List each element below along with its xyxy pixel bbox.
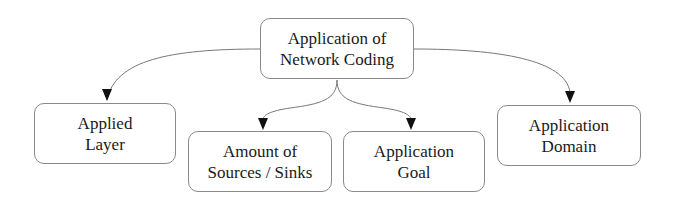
node-line: Goal (397, 162, 430, 183)
node-line: Amount of (223, 141, 297, 162)
node-line: Application (529, 115, 609, 136)
edge-root-applied-layer (107, 49, 260, 100)
arrowhead-icon (565, 91, 575, 103)
node-line: Applied (78, 113, 133, 134)
root-node: Application of Network Coding (260, 18, 414, 79)
root-line-1: Application of (288, 28, 387, 49)
edge-root-goal (337, 80, 411, 120)
arrowhead-icon (406, 118, 416, 130)
node-line: Layer (85, 134, 125, 155)
node-line: Domain (542, 136, 597, 157)
node-line: Sources / Sinks (208, 162, 313, 183)
node-application-goal: Application Goal (343, 131, 485, 192)
arrowhead-icon (102, 89, 112, 101)
edge-root-amount (263, 80, 337, 120)
arrowhead-icon (258, 118, 268, 130)
node-line: Application (374, 141, 454, 162)
edge-root-application-domain (414, 49, 570, 92)
node-application-domain: Application Domain (497, 105, 641, 166)
node-applied-layer: Applied Layer (34, 103, 176, 164)
root-line-2: Network Coding (280, 49, 394, 70)
node-amount-sources-sinks: Amount of Sources / Sinks (188, 131, 332, 192)
